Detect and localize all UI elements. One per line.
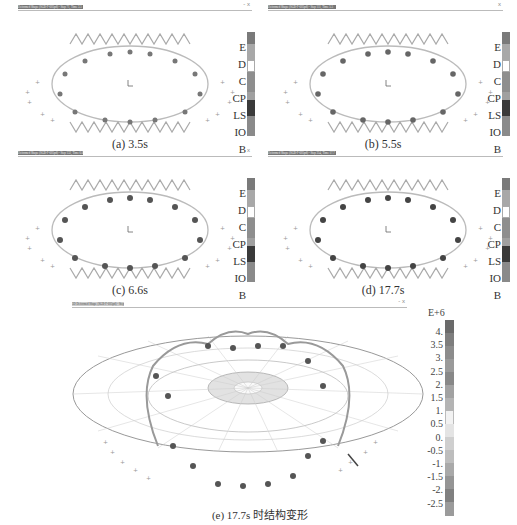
- svg-text:+: +: [215, 256, 220, 263]
- svg-text:+: +: [473, 256, 478, 263]
- window-titlebar[interactable]: Deformed Shape (SGB-F-605pd) - Step 132,…: [18, 152, 252, 157]
- caption-b: (b) 5.5s: [333, 137, 433, 152]
- window-titlebar[interactable]: Deformed Shape (SGB-F-605pd) - Step 354,…: [268, 152, 503, 157]
- structure-plan-view: +++++ +++++: [15, 170, 245, 280]
- window-controls[interactable]: x: [498, 147, 501, 153]
- window-controls[interactable]: - x: [398, 298, 405, 304]
- svg-text:+: +: [463, 116, 468, 123]
- svg-text:+: +: [285, 98, 290, 105]
- hinge-state-legend: [247, 32, 255, 136]
- hinge-legend-labels: EDCCPLSIOB: [226, 185, 246, 304]
- svg-text:+: +: [40, 110, 45, 117]
- svg-text:+: +: [50, 262, 55, 269]
- stress-legend-values: 4.3.53.2.52.1.51.0.50.-0.5-1.-1.5-2.-2.5: [420, 325, 443, 510]
- svg-text:+: +: [27, 98, 32, 105]
- svg-text:+: +: [308, 116, 313, 123]
- svg-text:+: +: [110, 448, 115, 455]
- svg-text:+: +: [363, 448, 368, 455]
- svg-text:+: +: [473, 110, 478, 117]
- hinge-state-legend: [502, 32, 510, 136]
- hinge-state-legend: [502, 178, 510, 282]
- window-title: Deformed Shape (SGB-F-605pd) - Step 354,…: [268, 151, 336, 155]
- svg-text:+: +: [215, 110, 220, 117]
- legend-exponent: E+6: [428, 307, 445, 318]
- window-controls[interactable]: - x: [243, 1, 250, 7]
- svg-text:+: +: [35, 224, 40, 231]
- caption-a: (a) 3.5s: [80, 137, 180, 152]
- svg-text:+: +: [308, 262, 313, 269]
- panel-c: Deformed Shape (SGB-F-605pd) - Step 132,…: [0, 152, 258, 302]
- panel-b: Deformed Shape (SGB-F-605pd) - Step 111,…: [258, 6, 517, 156]
- window-titlebar[interactable]: Deformed Shape (SGB-F-605pd) - Step 71, …: [18, 6, 252, 11]
- hinge-legend-labels: EDCCPLSIOB: [226, 39, 246, 158]
- structure-plan-view: +++++ +++++: [273, 24, 503, 134]
- svg-text:+: +: [25, 88, 30, 95]
- svg-text:+: +: [293, 78, 298, 85]
- caption-c: (c) 6.6s: [80, 283, 180, 298]
- svg-text:+: +: [35, 78, 40, 85]
- svg-text:+: +: [285, 244, 290, 251]
- caption-d: (d) 17.7s: [333, 283, 433, 298]
- window-title: Deformed Shape (SGB-F-605pd) - Step 132,…: [18, 151, 83, 155]
- svg-text:+: +: [220, 78, 225, 85]
- structure-3d-deformed-view: +++++ ++++: [58, 316, 438, 506]
- panel-e: 3D Deformed Shape (SGB-F-605pd) - Step 1…: [0, 298, 517, 525]
- panel-a: Deformed Shape (SGB-F-605pd) - Step 71, …: [0, 6, 258, 156]
- svg-text:+: +: [120, 458, 125, 465]
- hinge-state-legend: [247, 178, 255, 282]
- svg-text:+: +: [463, 262, 468, 269]
- svg-text:+: +: [338, 466, 343, 473]
- svg-text:+: +: [40, 256, 45, 263]
- hinge-legend-labels: EDCCPLSIOB: [481, 185, 501, 304]
- svg-text:+: +: [373, 438, 378, 445]
- caption-e: (e) 17.7s 时结构变形: [170, 506, 350, 522]
- svg-text:+: +: [146, 474, 151, 481]
- svg-text:+: +: [283, 88, 288, 95]
- svg-text:+: +: [27, 244, 32, 251]
- svg-text:+: +: [298, 110, 303, 117]
- window-title: Deformed Shape (SGB-F-605pd) - Step 71, …: [18, 5, 83, 9]
- svg-text:+: +: [25, 234, 30, 241]
- svg-text:+: +: [205, 116, 210, 123]
- svg-text:+: +: [283, 234, 288, 241]
- svg-text:+: +: [103, 438, 108, 445]
- window-titlebar[interactable]: 3D Deformed Shape (SGB-F-605pd) - Step 1…: [72, 303, 407, 308]
- structure-plan-view: +++++ +++++: [15, 24, 245, 134]
- window-titlebar[interactable]: Deformed Shape (SGB-F-605pd) - Step 111,…: [268, 6, 503, 11]
- structure-plan-view: +++++ +++++: [273, 170, 503, 280]
- svg-text:+: +: [205, 262, 210, 269]
- svg-text:+: +: [293, 224, 298, 231]
- window-controls[interactable]: x: [498, 1, 501, 7]
- panel-d: Deformed Shape (SGB-F-605pd) - Step 354,…: [258, 152, 517, 302]
- window-title: 3D Deformed Shape (SGB-F-605pd) - Step 1…: [72, 302, 124, 306]
- svg-text:+: +: [50, 116, 55, 123]
- svg-text:+: +: [220, 224, 225, 231]
- hinge-legend-labels: EDCCPLSIOB: [481, 39, 501, 158]
- window-controls[interactable]: x: [247, 147, 250, 153]
- svg-text:+: +: [298, 256, 303, 263]
- svg-text:+: +: [133, 466, 138, 473]
- window-title: Deformed Shape (SGB-F-605pd) - Step 111,…: [268, 5, 336, 9]
